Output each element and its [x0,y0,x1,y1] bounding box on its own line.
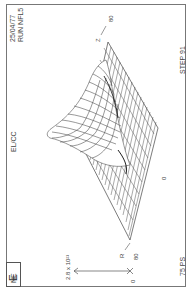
panel-label-box: E [6,262,21,287]
value-axis-arrow [0,0,192,291]
z-axis-max-label: 80 [108,15,115,22]
z-axis-label: Z [95,38,102,42]
r-axis-max-label: 80 [133,253,140,260]
r-axis-label: R [119,254,126,258]
time-label: 75 PS [179,257,187,276]
value-axis-min-label: 0 [130,280,137,283]
origin-label: 0 [161,177,168,180]
step-label: STEP 91 [179,46,187,74]
panel-label: E [9,274,19,281]
